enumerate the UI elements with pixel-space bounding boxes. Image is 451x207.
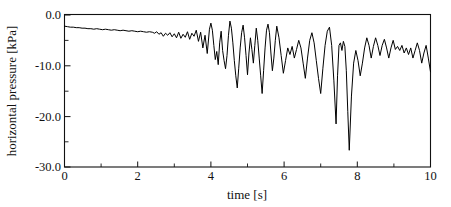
chart-figure: 0.0 -10.0 -20.0 -30.0 0 2 4 6 8 10 time … (0, 0, 451, 207)
y-tick-label-2: -20.0 (35, 110, 61, 124)
y-axis-ticks (65, 15, 71, 167)
pressure-time-chart: 0.0 -10.0 -20.0 -30.0 0 2 4 6 8 10 time … (0, 0, 451, 207)
x-tick-label-0: 0 (61, 169, 67, 183)
x-tick-label-2: 4 (208, 169, 215, 183)
y-tick-label-3: -30.0 (35, 160, 61, 174)
x-axis-ticks (65, 162, 431, 168)
y-tick-label-0: 0.0 (45, 8, 61, 22)
y-axis-title: horizontal pressure [kPa] (4, 26, 19, 157)
y-tick-label-1: -10.0 (35, 59, 61, 73)
x-tick-label-3: 6 (281, 169, 287, 183)
pressure-series-line (65, 21, 431, 150)
x-tick-label-5: 10 (424, 169, 437, 183)
x-axis-title: time [s] (227, 187, 267, 202)
x-tick-label-1: 2 (135, 169, 141, 183)
x-tick-label-4: 8 (354, 169, 360, 183)
